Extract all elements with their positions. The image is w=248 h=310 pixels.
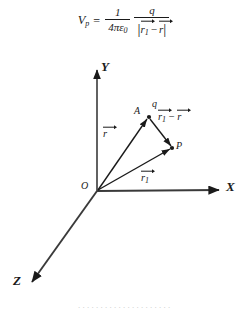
potential-formula: Vp = 1 4πε0 q |r1−r| bbox=[0, 4, 248, 37]
coulomb-denominator: 4πε0 bbox=[105, 20, 130, 36]
x-axis-line bbox=[97, 190, 219, 191]
formula-equals: = bbox=[91, 15, 102, 27]
point-a-dot bbox=[147, 115, 151, 119]
formula-lhs: Vp bbox=[78, 14, 90, 28]
formula-vector-r-letter: r bbox=[159, 23, 163, 35]
vector-r1-label-wrap: r1 bbox=[141, 169, 149, 185]
z-axis-label: Z bbox=[13, 274, 21, 287]
diagram-canvas bbox=[0, 55, 248, 310]
vector-r-label-letter: r bbox=[103, 128, 107, 139]
formula-minus: − bbox=[149, 23, 159, 35]
coulomb-numerator: 1 bbox=[112, 6, 124, 19]
formula-charge-fraction: q |r1−r| bbox=[134, 4, 169, 37]
coordinate-vector-diagram: Y X Z O A q P r r1 r1−r bbox=[0, 55, 248, 310]
difference-vector-r1-wrap: r1 bbox=[158, 108, 166, 124]
vector-r1-line bbox=[98, 149, 170, 190]
formula-vector-r: r bbox=[159, 19, 163, 36]
z-axis-line bbox=[32, 191, 97, 282]
formula-lhs-subscript: p bbox=[85, 19, 89, 28]
figure-page: Vp = 1 4πε0 q |r1−r| bbox=[0, 0, 248, 310]
charge-q-label: q bbox=[152, 99, 157, 109]
coulomb-den-epsilon-subscript: 0 bbox=[123, 26, 127, 35]
abs-close-bar: | bbox=[163, 22, 166, 37]
origin-label: O bbox=[81, 181, 88, 191]
charge-numerator: q bbox=[146, 4, 158, 17]
formula-vector-r1-subscript: 1 bbox=[145, 28, 149, 37]
vector-r1-label: r1 bbox=[141, 169, 149, 185]
point-a-label: A bbox=[134, 106, 140, 116]
difference-minus-sign: − bbox=[166, 111, 177, 122]
y-axis-label: Y bbox=[101, 60, 109, 73]
point-p-dot bbox=[170, 146, 174, 150]
formula-vector-r1: r1 bbox=[141, 19, 149, 38]
difference-vector-r-letter: r bbox=[177, 111, 181, 122]
difference-vector-r1-subscript: 1 bbox=[162, 115, 166, 124]
vector-r1-label-subscript: 1 bbox=[145, 176, 149, 185]
vector-r-label: r bbox=[103, 125, 107, 140]
page-bottom-caption: . . . . . . . . . . . . . . . . . . . . … bbox=[0, 300, 248, 310]
vector-r-label-wrap: r bbox=[103, 125, 107, 140]
difference-vector-r-wrap: r bbox=[177, 108, 181, 123]
charge-denominator: |r1−r| bbox=[134, 18, 169, 38]
formula-row: Vp = 1 4πε0 q |r1−r| bbox=[78, 4, 171, 37]
x-axis-label: X bbox=[226, 180, 235, 193]
vector-difference-label: r1−r bbox=[158, 108, 181, 124]
formula-coulomb-fraction: 1 4πε0 bbox=[105, 6, 130, 35]
point-p-label: P bbox=[176, 141, 182, 151]
